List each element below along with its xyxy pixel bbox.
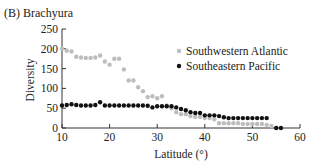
legend-marker-southeastern-pacific [177, 64, 181, 68]
x-axis-label: Latitude (°) [154, 148, 208, 161]
data-point [122, 103, 126, 107]
data-point [184, 112, 188, 116]
legend-label-southeastern-pacific: Southeastern Pacific [186, 60, 280, 72]
x-tick-label: 50 [247, 131, 259, 143]
data-point [74, 103, 78, 107]
data-point [198, 115, 202, 119]
data-point [160, 104, 164, 108]
data-point [98, 100, 102, 104]
data-point [236, 121, 240, 125]
data-point [84, 103, 88, 107]
data-point [150, 105, 154, 109]
data-point [241, 116, 245, 120]
data-point [122, 67, 126, 71]
data-point [131, 103, 135, 107]
data-point [79, 55, 83, 59]
data-point [69, 49, 73, 53]
data-point [184, 108, 188, 112]
legend-label-southwestern-atlantic: Southwestern Atlantic [186, 45, 288, 57]
y-tick-label: 0 [52, 122, 58, 134]
data-point [117, 57, 121, 61]
data-point [255, 116, 259, 120]
data-point [245, 122, 249, 126]
data-point [274, 126, 278, 130]
data-point [241, 122, 245, 126]
data-point [250, 122, 254, 126]
data-point [260, 116, 264, 120]
data-point [103, 103, 107, 107]
data-point [65, 103, 69, 107]
data-point [88, 56, 92, 60]
data-point [188, 110, 192, 114]
y-tick-label: 200 [41, 43, 59, 55]
data-point [250, 116, 254, 120]
data-point [255, 122, 259, 126]
data-point [79, 103, 83, 107]
x-tick-label: 10 [56, 131, 68, 143]
data-point [136, 103, 140, 107]
data-point [264, 123, 268, 127]
data-point [136, 85, 140, 89]
data-point [131, 78, 135, 82]
data-point [150, 94, 154, 98]
data-point [126, 103, 130, 107]
data-point [226, 116, 230, 120]
data-point [74, 55, 78, 59]
data-point [155, 96, 159, 100]
series-southeastern-pacific [60, 100, 283, 130]
x-tick-label: 30 [151, 131, 163, 143]
data-point [117, 103, 121, 107]
legend: Southwestern Atlantic Southeastern Pacif… [177, 45, 288, 72]
data-point [93, 55, 97, 59]
data-point [198, 111, 202, 115]
x-tick-label: 20 [104, 131, 116, 143]
data-point [217, 121, 221, 125]
data-point [203, 113, 207, 117]
data-point [269, 124, 273, 128]
data-point [107, 62, 111, 66]
data-point [112, 57, 116, 61]
data-point [112, 103, 116, 107]
data-point [155, 104, 159, 108]
data-point [141, 89, 145, 93]
data-point [231, 116, 235, 120]
chart-title: (B) Brachyura [4, 6, 74, 20]
series-southwestern-atlantic [60, 47, 274, 129]
data-point [245, 116, 249, 120]
legend-marker-southwestern-atlantic [177, 49, 181, 53]
data-point [212, 117, 216, 121]
data-point [217, 114, 221, 118]
data-point [88, 103, 92, 107]
x-tick-label: 40 [199, 131, 211, 143]
y-tick-label: 150 [41, 63, 59, 75]
data-point [165, 104, 169, 108]
data-point [60, 47, 64, 51]
data-point [60, 103, 64, 107]
y-tick-label: 50 [47, 102, 59, 114]
data-point [193, 111, 197, 115]
data-point [231, 121, 235, 125]
data-point [207, 113, 211, 117]
data-point [126, 78, 130, 82]
data-point [69, 102, 73, 106]
data-point [103, 59, 107, 63]
data-point [174, 110, 178, 114]
y-tick-label: 100 [41, 82, 59, 94]
data-point [179, 112, 183, 116]
data-point [222, 115, 226, 119]
data-point [193, 115, 197, 119]
data-point [279, 126, 283, 130]
data-point [226, 121, 230, 125]
data-point [65, 49, 69, 53]
data-point [145, 95, 149, 99]
data-point [236, 116, 240, 120]
y-tick-label: 250 [41, 23, 59, 35]
data-point [188, 114, 192, 118]
data-point [107, 103, 111, 107]
data-point [84, 56, 88, 60]
data-point [141, 103, 145, 107]
data-point [179, 107, 183, 111]
data-point [98, 53, 102, 57]
data-point [145, 104, 149, 108]
data-point [93, 103, 97, 107]
